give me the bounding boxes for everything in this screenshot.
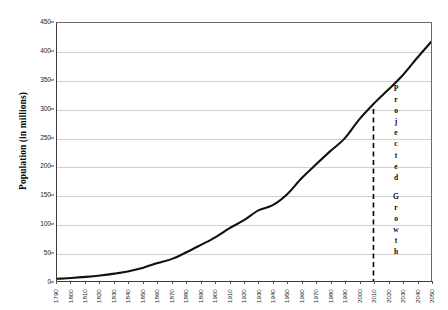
population-line-chart: Population (in millions) 050100150200250… bbox=[0, 0, 448, 310]
annotation-letter: P bbox=[390, 83, 402, 94]
annotation-letter: w bbox=[390, 224, 402, 235]
annotation-letter: t bbox=[390, 150, 402, 161]
annotation-letter: e bbox=[390, 127, 402, 138]
annotation-letter: r bbox=[390, 94, 402, 105]
y-axis-tick-mark bbox=[50, 108, 54, 109]
y-axis-tick-mark bbox=[50, 282, 54, 283]
y-axis-tick-mark bbox=[50, 50, 54, 51]
y-axis-tick-labels: 050100150200250300350400450 bbox=[26, 0, 54, 310]
annotation-letter: d bbox=[390, 172, 402, 183]
y-axis-tick-mark bbox=[50, 195, 54, 196]
x-axis-tick-labels: 1790180018101820183018401850186018701880… bbox=[56, 284, 432, 310]
annotation-letter: c bbox=[390, 138, 402, 149]
annotation-letter: o bbox=[390, 213, 402, 224]
annotation-letter: h bbox=[390, 246, 402, 257]
x-axis-tick-label: 2050 bbox=[419, 284, 445, 310]
annotation-letter: t bbox=[390, 235, 402, 246]
y-axis-tick-mark bbox=[50, 253, 54, 254]
plot-svg bbox=[57, 23, 431, 281]
annotation-letter: j bbox=[390, 116, 402, 127]
annotation-letter: o bbox=[390, 105, 402, 116]
y-axis-tick-mark bbox=[50, 22, 54, 23]
plot-area bbox=[56, 22, 432, 282]
y-axis-tick-mark bbox=[50, 224, 54, 225]
population-line bbox=[57, 42, 431, 279]
projected-growth-label-projected: Projected bbox=[390, 83, 402, 183]
annotation-letter: r bbox=[390, 202, 402, 213]
y-axis-tick-mark bbox=[50, 137, 54, 138]
x-axis-tick-label-text: 2050 bbox=[429, 289, 435, 303]
annotation-letter: G bbox=[390, 191, 402, 202]
annotation-letter: e bbox=[390, 161, 402, 172]
y-axis-tick-mark bbox=[50, 79, 54, 80]
y-axis-tick-mark bbox=[50, 166, 54, 167]
projected-growth-label-growth: Growth bbox=[390, 191, 402, 258]
